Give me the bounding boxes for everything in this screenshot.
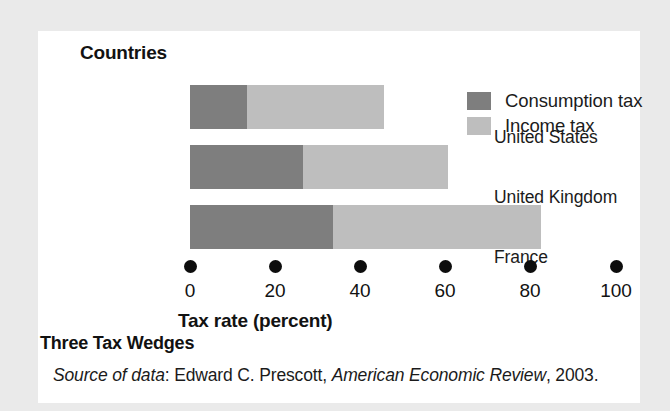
axis-tick-label-0: 0 <box>185 280 196 302</box>
source-publication: American Economic Review <box>332 365 546 385</box>
figure-panel: Countries United States United Kingdom F… <box>38 31 640 403</box>
axis-tick-label-60: 60 <box>434 280 455 302</box>
axis-tick-dot-60 <box>439 260 452 273</box>
axis-tick-label-20: 20 <box>264 280 285 302</box>
source-suffix: , 2003. <box>546 365 598 385</box>
bar-segment-consumption-tax <box>190 205 333 249</box>
bar-segment-income-tax <box>303 145 448 189</box>
figure-source: Source of data: Edward C. Prescott, Amer… <box>53 365 598 386</box>
legend-label-income-tax: Income tax <box>505 115 595 137</box>
axis-tick-dot-80 <box>524 260 537 273</box>
source-prefix: Source of data <box>53 365 165 385</box>
axis-tick-label-100: 100 <box>600 280 632 302</box>
legend-swatch-income-tax <box>467 117 491 135</box>
axis-tick-dot-40 <box>354 260 367 273</box>
figure-container: Countries United States United Kingdom F… <box>0 0 670 411</box>
x-axis-title: Tax rate (percent) <box>178 310 332 332</box>
legend-item-income-tax: Income tax <box>467 113 642 138</box>
source-separator: : <box>165 365 174 385</box>
legend: Consumption tax Income tax <box>467 88 642 138</box>
axis-tick-dot-0 <box>184 260 197 273</box>
bar-segment-income-tax <box>333 205 541 249</box>
figure-title: Three Tax Wedges <box>40 333 194 354</box>
bar-segment-consumption-tax <box>190 85 247 129</box>
axis-tick-dot-100 <box>610 260 623 273</box>
axis-tick-label-80: 80 <box>519 280 540 302</box>
legend-label-consumption-tax: Consumption tax <box>505 90 642 112</box>
bar-segment-income-tax <box>247 85 384 129</box>
bar-segment-consumption-tax <box>190 145 303 189</box>
axis-tick-label-40: 40 <box>349 280 370 302</box>
source-author: Edward C. Prescott, <box>174 365 331 385</box>
legend-item-consumption-tax: Consumption tax <box>467 88 642 113</box>
axis-tick-dot-20 <box>269 260 282 273</box>
legend-swatch-consumption-tax <box>467 92 491 110</box>
